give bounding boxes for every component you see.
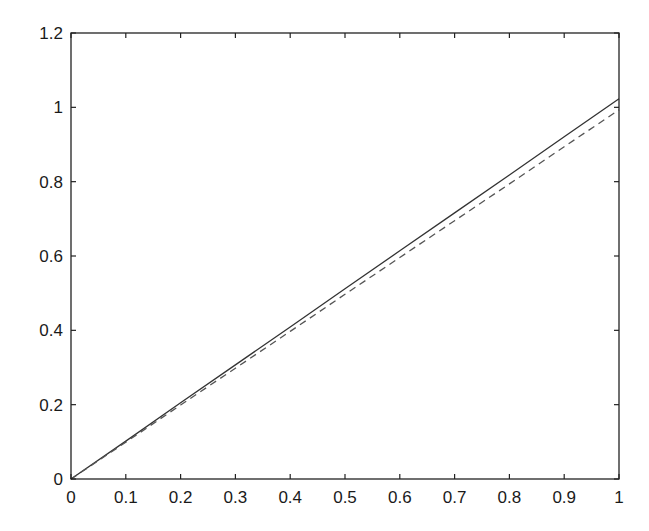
x-tick-label: 0 [66, 488, 75, 507]
y-tick-label: 0 [54, 470, 63, 489]
y-tick-label: 1 [54, 98, 63, 117]
x-tick-label: 0.6 [388, 488, 412, 507]
y-tick-label: 0.8 [39, 173, 63, 192]
ticks-layer [71, 33, 619, 479]
x-tick-label: 0.3 [224, 488, 248, 507]
x-tick-label: 0.7 [443, 488, 467, 507]
x-tick-label: 0.2 [169, 488, 193, 507]
line-chart: 00.10.20.30.40.50.60.70.80.91 00.20.40.6… [0, 0, 649, 531]
x-tick-label: 0.1 [114, 488, 138, 507]
y-tick-label: 1.2 [39, 24, 63, 43]
y-axis-tick-labels: 00.20.40.60.811.2 [39, 24, 63, 489]
x-tick-label: 0.4 [278, 488, 302, 507]
x-tick-label: 1 [614, 488, 623, 507]
y-tick-label: 0.2 [39, 396, 63, 415]
solid-line [71, 99, 619, 479]
axes-frame [71, 33, 619, 479]
y-tick-label: 0.4 [39, 321, 63, 340]
y-tick-label: 0.6 [39, 247, 63, 266]
x-tick-label: 0.8 [498, 488, 522, 507]
x-axis-tick-labels: 00.10.20.30.40.50.60.70.80.91 [66, 488, 623, 507]
x-tick-label: 0.5 [333, 488, 357, 507]
series-layer [71, 99, 619, 479]
dashed-line [71, 110, 619, 479]
x-tick-label: 0.9 [552, 488, 576, 507]
